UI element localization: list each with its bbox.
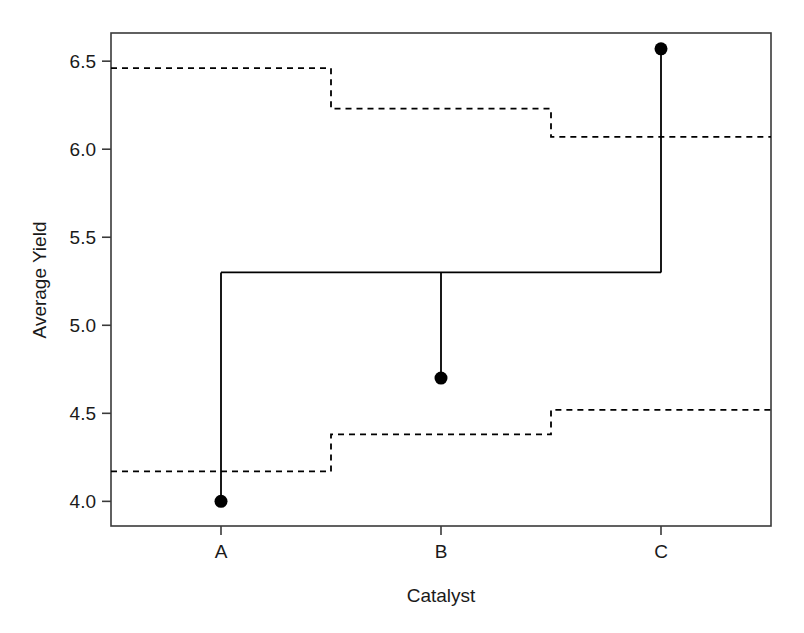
y-tick-label: 6.5: [70, 51, 96, 72]
data-point-marker: [435, 372, 448, 385]
x-tick-label: A: [215, 541, 228, 562]
y-axis-title: Average Yield: [29, 222, 50, 339]
chart-container: 6.56.05.55.04.54.0 ABC Average Yield Cat…: [0, 0, 804, 633]
chart-background: [0, 0, 804, 633]
x-tick-label: B: [435, 541, 448, 562]
x-tick-label: C: [654, 541, 668, 562]
data-point-marker: [655, 42, 668, 55]
y-tick-label: 5.5: [70, 227, 96, 248]
y-tick-label: 5.0: [70, 315, 96, 336]
data-point-marker: [215, 495, 228, 508]
x-axis-title: Catalyst: [407, 585, 476, 606]
y-tick-label: 6.0: [70, 139, 96, 160]
average-yield-step-chart: 6.56.05.55.04.54.0 ABC Average Yield Cat…: [0, 0, 804, 633]
y-tick-label: 4.5: [70, 403, 96, 424]
y-tick-label: 4.0: [70, 491, 96, 512]
